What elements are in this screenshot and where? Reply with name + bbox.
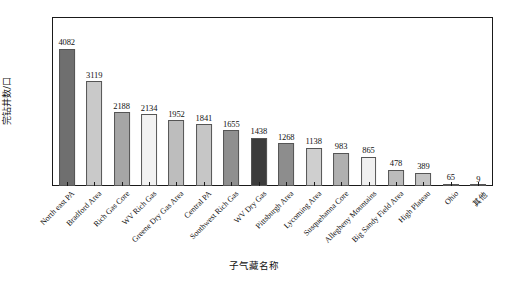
- x-tick-mark: [231, 182, 232, 186]
- x-tick-mark: [259, 182, 260, 186]
- bar-value-label: 389: [417, 161, 429, 171]
- bar-group: 1841: [190, 18, 217, 186]
- bar-value-label: 1655: [223, 119, 240, 129]
- x-tick-mark: [369, 182, 370, 186]
- x-tick-label: Southwest Rich Gas: [188, 189, 240, 241]
- x-tick-mark: [286, 182, 287, 186]
- x-tick-mark: [478, 182, 479, 186]
- bar[interactable]: [114, 112, 130, 186]
- x-tick-label: 其他: [470, 189, 489, 208]
- x-tick-mark: [423, 182, 424, 186]
- bar-group: 2188: [108, 18, 135, 186]
- x-tick-label: Ohio: [443, 189, 461, 207]
- bar-value-label: 1138: [306, 136, 322, 146]
- x-tick-mark: [341, 182, 342, 186]
- x-tick-mark: [67, 182, 68, 186]
- bar-value-label: 65: [447, 172, 455, 182]
- bar[interactable]: [223, 130, 239, 186]
- bar[interactable]: [169, 120, 185, 186]
- bar-value-label: 865: [362, 145, 374, 155]
- bar[interactable]: [141, 114, 157, 186]
- bar[interactable]: [251, 138, 267, 186]
- bar-value-label: 2188: [113, 101, 130, 111]
- x-tick-mark: [396, 182, 397, 186]
- x-axis-title: 子气藏名称: [0, 258, 507, 272]
- bar-group: 1268: [273, 18, 300, 186]
- bar[interactable]: [59, 49, 75, 186]
- bar-group: 865: [355, 18, 382, 186]
- bar-group: 1138: [300, 18, 327, 186]
- x-tick-mark: [149, 182, 150, 186]
- bar-group: 983: [327, 18, 354, 186]
- bar-value-label: 478: [390, 158, 402, 168]
- bar-group: 389: [410, 18, 437, 186]
- bar-group: 9: [465, 18, 492, 186]
- bar-group: 4082: [53, 18, 80, 186]
- x-tick-mark: [122, 182, 123, 186]
- x-tick-mark: [451, 182, 452, 186]
- bar-group: 3119: [80, 18, 107, 186]
- x-tick-label: Greene Dry Gas Area: [131, 189, 186, 244]
- bar[interactable]: [278, 143, 294, 186]
- x-tick-mark: [314, 182, 315, 186]
- bar[interactable]: [306, 148, 322, 186]
- bar-value-label: 983: [335, 141, 347, 151]
- x-tick-mark: [204, 182, 205, 186]
- bar-value-label: 1268: [278, 132, 295, 142]
- bar-chart: 010002000300040005000 完钻井数/口 40823119218…: [0, 0, 507, 281]
- bar[interactable]: [86, 81, 102, 186]
- bar-value-label: 2134: [141, 103, 158, 113]
- x-axis-labels: North east PABradford AreaRich Gas CoreW…: [53, 189, 492, 251]
- bar-group: 1952: [163, 18, 190, 186]
- x-tick-mark: [94, 182, 95, 186]
- bar-group: 2134: [135, 18, 162, 186]
- bar-value-label: 3119: [86, 70, 102, 80]
- bar-value-label: 4082: [58, 37, 75, 47]
- bar-value-label: 1438: [250, 126, 267, 136]
- bar-value-label: 1952: [168, 109, 185, 119]
- bars-layer: 4082311921882134195218411655143812681138…: [53, 18, 492, 186]
- bar[interactable]: [196, 124, 212, 186]
- bar-value-label: 1841: [196, 113, 213, 123]
- bar-group: 1438: [245, 18, 272, 186]
- bar-group: 478: [382, 18, 409, 186]
- bar-group: 1655: [218, 18, 245, 186]
- y-axis-title: 完钻井数/口: [0, 77, 13, 125]
- bar-group: 65: [437, 18, 464, 186]
- x-tick-mark: [176, 182, 177, 186]
